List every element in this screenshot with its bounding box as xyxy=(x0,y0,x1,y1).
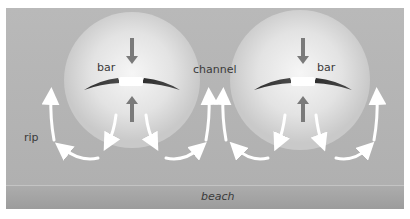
label-bar-left: bar xyxy=(97,61,116,74)
label-rip: rip xyxy=(24,131,39,144)
label-bar-right: bar xyxy=(317,61,336,74)
rip-current-diagram: bar channel bar rip beach xyxy=(0,0,410,219)
label-beach: beach xyxy=(201,190,235,203)
label-channel: channel xyxy=(193,63,237,76)
